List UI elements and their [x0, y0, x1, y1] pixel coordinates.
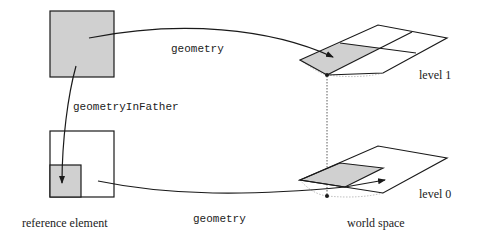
- father-reference-element: [50, 11, 114, 77]
- label-reference-element: reference element: [22, 216, 108, 230]
- label-level1: level 1: [419, 68, 451, 82]
- label-world-space: world space: [347, 216, 405, 230]
- label-geometry-in-father: geometryInFather: [73, 101, 179, 113]
- diagram-canvas: geometry geometryInFather geometry level…: [0, 0, 478, 242]
- child-subelement: [50, 165, 81, 197]
- label-geometry-bottom: geometry: [193, 213, 246, 225]
- label-geometry-top: geometry: [171, 43, 224, 55]
- label-level0: level 0: [419, 187, 451, 201]
